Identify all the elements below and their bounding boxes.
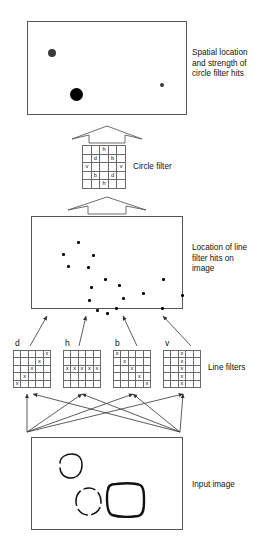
line-filter-b-cell-r3c2 xyxy=(121,366,128,373)
line-filter-d-cell-r4c4 xyxy=(36,373,43,380)
line-filter-d-cell-r2c2 xyxy=(21,358,28,365)
line-filter-hits-panel xyxy=(31,216,183,309)
line-filter-h-cell-r4c4 xyxy=(86,373,93,380)
line-filters-label: Line filters xyxy=(208,363,272,374)
line-hit-dot xyxy=(122,297,125,300)
line-filter-b-cell-r1c3 xyxy=(129,351,136,358)
circle-filter-cell-r4c1 xyxy=(83,172,92,181)
line-filter-grid-d: xxxxx xyxy=(13,350,51,388)
line-filter-d-cell-r1c3 xyxy=(29,351,36,358)
input-to-line-filter-arrows xyxy=(27,394,183,432)
line-filter-d-cell-r2c1 xyxy=(14,358,21,365)
line-filter-v-cell-r1c4 xyxy=(186,351,193,358)
line-filter-grid-v: xxxxx xyxy=(163,350,201,388)
input-image-panel xyxy=(31,437,183,530)
circle-filter-cell-r2c5 xyxy=(117,155,126,164)
line-hit-dot xyxy=(142,292,145,295)
line-filter-h-cell-r4c3 xyxy=(79,373,86,380)
circle-filter-cell-r2c2: d xyxy=(92,155,101,164)
line-hit-dot xyxy=(162,278,165,281)
line-filter-d-cell-r3c5 xyxy=(44,366,51,373)
line-filter-v-cell-r2c1 xyxy=(164,358,171,365)
line-hit-dot xyxy=(181,294,184,297)
line-filter-v-cell-r5c2 xyxy=(171,381,178,388)
line-filter-d-cell-r1c2 xyxy=(21,351,28,358)
line-filter-b-cell-r5c2 xyxy=(121,381,128,388)
line-filter-h-cell-r5c2 xyxy=(71,381,78,388)
line-filter-b-cell-r4c4: x xyxy=(136,373,143,380)
line-filter-v-cell-r5c3: x xyxy=(179,381,186,388)
line-hit-dot xyxy=(96,309,99,312)
circle-filter-cell-r5c4 xyxy=(109,180,118,189)
circle-filter-cell-r1c3: h xyxy=(100,146,109,155)
line-filter-h-cell-r4c1 xyxy=(64,373,71,380)
line-hit-dot xyxy=(90,286,93,289)
line-filter-label-d: d xyxy=(15,338,20,348)
input-image-shapes xyxy=(32,438,184,531)
line-filter-d-cell-r3c1 xyxy=(14,366,21,373)
line-filter-v-cell-r5c4 xyxy=(186,381,193,388)
line-filter-b-cell-r2c5 xyxy=(144,358,151,365)
line-filter-h-cell-r1c1 xyxy=(64,351,71,358)
line-filter-d-cell-r5c1: x xyxy=(14,381,21,388)
line-filter-v-cell-r1c5 xyxy=(194,351,201,358)
line-filter-b-cell-r5c1 xyxy=(114,381,121,388)
line-filter-v-cell-r5c1 xyxy=(164,381,171,388)
circle-filter-cell-r1c1 xyxy=(83,146,92,155)
line-filter-b-cell-r3c1 xyxy=(114,366,121,373)
circle-filter-cell-r3c2 xyxy=(92,163,101,172)
line-filter-h-cell-r4c5 xyxy=(94,373,101,380)
dashed-circle-shape xyxy=(76,488,101,515)
line-filter-h-cell-r3c2: x xyxy=(71,366,78,373)
line-filter-b-cell-r3c5 xyxy=(144,366,151,373)
line-filter-b-cell-r1c4 xyxy=(136,351,143,358)
line-filter-b-cell-r4c1 xyxy=(114,373,121,380)
line-filter-b-cell-r2c1 xyxy=(114,358,121,365)
line-filter-grid-b: xxxxx xyxy=(113,350,151,388)
line-filter-label-b: b xyxy=(115,338,120,348)
line-filter-b-cell-r3c3: x xyxy=(129,366,136,373)
circle-filter-cell-r4c2: b xyxy=(92,172,101,181)
circle-filter-label: Circle filter xyxy=(133,162,203,173)
line-filter-v-cell-r3c1 xyxy=(164,366,171,373)
line-hit-dot xyxy=(118,284,121,287)
line-filter-h-cell-r3c4: x xyxy=(86,366,93,373)
line-filter-v-cell-r2c2 xyxy=(171,358,178,365)
line-filter-d-cell-r5c5 xyxy=(44,381,51,388)
circle-filter-cell-r1c2 xyxy=(92,146,101,155)
line-filter-h-cell-r1c2 xyxy=(71,351,78,358)
circle-filter-cell-r2c3 xyxy=(100,155,109,164)
line-hit-dot xyxy=(87,266,90,269)
line-hit-dot xyxy=(62,253,65,256)
strong-hit-dot xyxy=(70,88,83,101)
circle-hits-caption: Spatial location and strength of circle … xyxy=(192,48,272,80)
line-filter-d-cell-r4c3 xyxy=(29,373,36,380)
circle-filter-cell-r3c3 xyxy=(100,163,109,172)
line-filter-grid-h: xxxxx xyxy=(63,350,101,388)
circle-hit-dot-layer xyxy=(28,22,186,114)
circle-filter-cell-r4c4: d xyxy=(109,172,118,181)
line-filter-v-cell-r2c5 xyxy=(194,358,201,365)
line-filter-label-h: h xyxy=(65,338,70,348)
circle-filter-cell-r1c5 xyxy=(117,146,126,155)
line-filter-v-cell-r4c4 xyxy=(186,373,193,380)
line-filter-d-cell-r4c5 xyxy=(44,373,51,380)
line-filter-v-cell-r4c5 xyxy=(194,373,201,380)
line-filter-d-cell-r2c5 xyxy=(44,358,51,365)
rounded-square-shape xyxy=(107,483,144,516)
line-filter-h-cell-r3c5: x xyxy=(94,366,101,373)
figure-canvas: Spatial location and strength of circle … xyxy=(0,0,275,546)
funnel-arrow-lines-to-circle xyxy=(68,197,146,214)
line-hit-dot xyxy=(104,278,107,281)
weak-hit-dot xyxy=(160,83,164,87)
line-filter-v-cell-r3c4 xyxy=(186,366,193,373)
funnel-arrow-circle-to-hits xyxy=(72,126,142,143)
line-hit-dot-layer xyxy=(32,217,182,308)
line-hit-dot xyxy=(92,254,95,257)
line-filter-v-cell-r3c5 xyxy=(194,366,201,373)
line-hit-dot xyxy=(161,307,164,310)
line-filter-b-cell-r4c3 xyxy=(129,373,136,380)
circle-filter-cell-r5c3: h xyxy=(100,180,109,189)
line-filter-d-cell-r1c1 xyxy=(14,351,21,358)
circle-filter-cell-r4c3 xyxy=(100,172,109,181)
